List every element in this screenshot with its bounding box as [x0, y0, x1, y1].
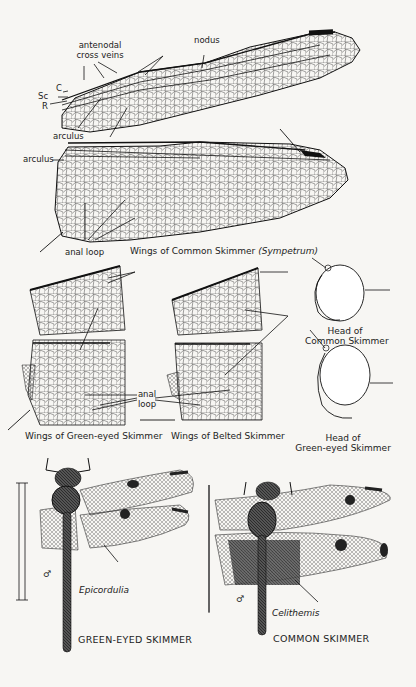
caption-text: Wings of Common Skimmer [130, 246, 255, 256]
caption-head-green-eyed: Head of Green-eyed Skimmer [293, 433, 393, 453]
sex-symbol-common: ♂ [236, 594, 244, 604]
head-common-line1: Head of [305, 326, 385, 336]
caption-genus: (Sympetrum) [258, 246, 318, 256]
head-common-skimmer-drawing [312, 258, 390, 321]
label-sc: Sc [38, 91, 48, 101]
caption-wings-common-skimmer: Wings of Common Skimmer (Sympetrum) [130, 246, 318, 256]
genus-celithemis: Celithemis [272, 608, 320, 618]
sex-symbol-green-eyed: ♂ [43, 569, 51, 579]
title-common-skimmer: COMMON SKIMMER [273, 633, 369, 644]
label-anal: anal [135, 389, 159, 399]
caption-wings-green-eyed: Wings of Green-eyed Skimmer [25, 431, 162, 441]
label-r: R [42, 101, 48, 111]
label-anal-loop-middle: anal loop [135, 389, 159, 409]
label-nodus: nodus [194, 35, 220, 45]
label-antenodal-cross-veins: antenodal cross veins [60, 40, 140, 60]
label-cross-veins: cross veins [60, 50, 140, 60]
genus-epicordulia: Epicordulia [79, 585, 129, 595]
head-green-line2: Green-eyed Skimmer [293, 443, 393, 453]
label-antenodal: antenodal [60, 40, 140, 50]
label-loop: loop [135, 399, 159, 409]
head-common-line2: Common Skimmer [305, 336, 385, 346]
green-eyed-wing-bases [8, 266, 135, 430]
label-c: C [56, 83, 62, 93]
hindwing-drawing [40, 142, 348, 252]
green-eyed-skimmer-drawing [16, 458, 209, 652]
caption-head-common: Head of Common Skimmer [305, 326, 385, 346]
label-arculus-hindwing: arculus [23, 154, 54, 164]
label-anal-loop-common: anal loop [65, 247, 104, 257]
head-green-line1: Head of [293, 433, 393, 443]
title-green-eyed-skimmer: GREEN-EYED SKIMMER [78, 634, 192, 645]
label-arculus-forewing: arculus [53, 131, 84, 141]
caption-wings-belted: Wings of Belted Skimmer [171, 431, 285, 441]
